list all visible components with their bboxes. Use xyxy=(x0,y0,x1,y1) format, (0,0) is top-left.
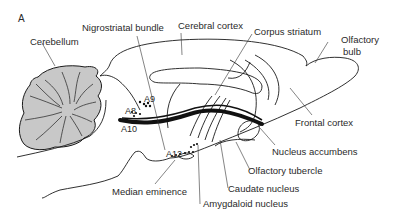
panel-label: A xyxy=(18,14,25,24)
label-cerebral-cortex: Cerebral cortex xyxy=(178,21,243,31)
label-median-eminence: Median eminence xyxy=(112,187,187,197)
label-a8: A8 xyxy=(125,107,136,116)
label-caudate-nucleus: Caudate nucleus xyxy=(228,184,299,194)
label-frontal-cortex: Frontal cortex xyxy=(295,118,353,128)
label-nucleus-accumbens: Nucleus accumbens xyxy=(272,147,358,157)
label-nigrostriatal-bundle: Nigrostriatal bundle xyxy=(82,23,164,33)
label-olfactory-bulb-line2: bulb xyxy=(343,47,361,57)
label-a10: A10 xyxy=(121,125,137,134)
label-amygdaloid-nucleus: Amygdaloid nucleus xyxy=(203,199,288,209)
label-a12: A12 xyxy=(166,150,182,159)
label-corpus-striatum: Corpus striatum xyxy=(254,27,321,37)
brain-diagram xyxy=(0,0,394,222)
nigrostriatal-pathway xyxy=(120,110,262,124)
label-olfactory-bulb-line1: Olfactory xyxy=(341,35,379,45)
label-a9: A9 xyxy=(144,95,155,104)
label-cerebellum: Cerebellum xyxy=(30,37,79,47)
cerebellum-shape xyxy=(19,66,101,150)
label-olfactory-tubercle: Olfactory tubercle xyxy=(248,166,322,176)
